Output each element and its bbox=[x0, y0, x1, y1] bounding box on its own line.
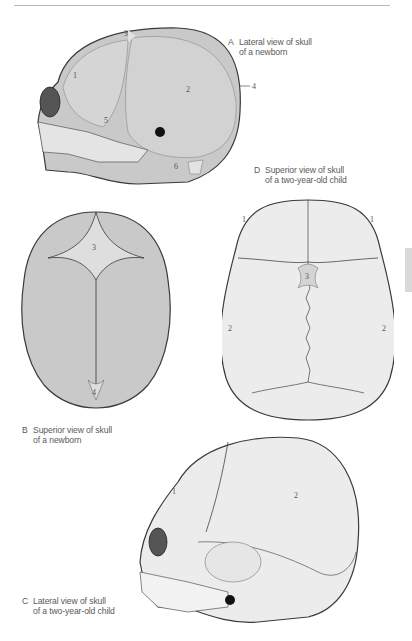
caption-d: DSuperior view of skull of a two-year-ol… bbox=[254, 165, 347, 185]
caption-a: ALateral view of skull of a newborn bbox=[228, 37, 312, 57]
label-1: 1 bbox=[73, 71, 77, 80]
label-4: 4 bbox=[92, 388, 96, 397]
label-2: 2 bbox=[294, 491, 298, 500]
label-5: 5 bbox=[104, 116, 108, 125]
label-2-right: 2 bbox=[382, 324, 386, 333]
figure-d-superior-child-skull: 1 1 2 2 3 bbox=[222, 198, 394, 423]
caption-c: CLateral view of skull of a two-year-old… bbox=[22, 596, 115, 616]
label-3: 3 bbox=[124, 29, 128, 38]
label-4: 4 bbox=[252, 82, 256, 91]
caption-b: BSuperior view of skull of a newborn bbox=[22, 425, 112, 445]
label-2-left: 2 bbox=[228, 324, 232, 333]
label-6: 6 bbox=[174, 162, 178, 171]
chapter-thumb-tab bbox=[405, 248, 412, 292]
top-rule bbox=[14, 5, 390, 6]
figure-c-lateral-child-skull: 1 2 bbox=[138, 432, 366, 632]
label-3: 3 bbox=[92, 243, 96, 252]
label-1: 1 bbox=[172, 487, 176, 496]
figure-b-superior-newborn-skull: 3 4 bbox=[18, 210, 174, 410]
label-1-left: 1 bbox=[242, 215, 246, 224]
label-1-right: 1 bbox=[370, 215, 374, 224]
label-3: 3 bbox=[305, 272, 309, 281]
label-2: 2 bbox=[186, 85, 190, 94]
